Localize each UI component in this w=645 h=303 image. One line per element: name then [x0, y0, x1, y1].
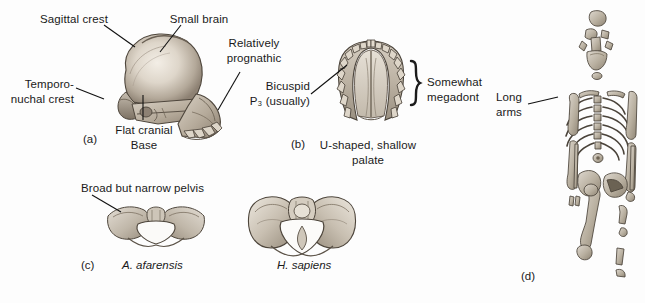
afarensis-pelvis-illustration	[104, 200, 208, 250]
label-relatively-prognathic: Relatively prognathic	[212, 36, 296, 65]
label-sagittal-crest: Sagittal crest	[26, 12, 122, 27]
partial-skeleton-illustration	[545, 8, 645, 278]
label-small-brain: Small brain	[158, 12, 240, 27]
caption-panel-d: (d)	[521, 270, 535, 282]
palate-illustration	[333, 38, 409, 124]
sapiens-pelvis-illustration	[243, 192, 361, 260]
label-broad-but-narrow-pelvis: Broad but narrow pelvis	[81, 181, 229, 196]
caption-panel-a: (a)	[83, 133, 97, 145]
label-long-arms: Long arms	[487, 90, 531, 119]
taxon-afarensis: A. afarensis	[122, 259, 183, 271]
label-temporo-nuchal-crest: Temporo- nuchal crest	[2, 77, 74, 106]
caption-panel-b: (b)	[291, 138, 305, 150]
label-flat-cranial-base: Flat cranial Base	[108, 123, 180, 152]
taxon-sapiens: H. sapiens	[277, 259, 331, 271]
label-bicuspid-p3: Bicuspid P₃ (usually)	[240, 79, 310, 108]
anatomical-figure: Sagittal crest Small brain Relatively pr…	[0, 0, 645, 303]
label-palate-shape: U-shaped, shallow palate	[316, 138, 420, 167]
caption-panel-c: (c)	[81, 259, 94, 271]
